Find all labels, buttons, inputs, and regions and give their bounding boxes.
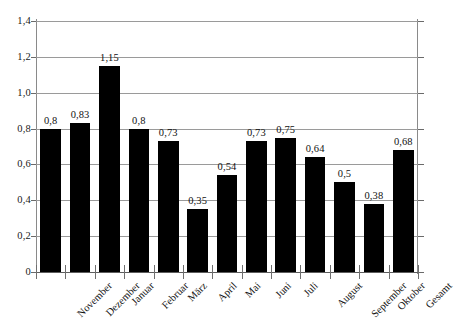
x-axis-category-label: Gesamt xyxy=(424,280,454,310)
x-axis-category-label: August xyxy=(335,280,364,309)
bar xyxy=(246,141,267,272)
y-axis-tick-labels: 00,20,40,60,81,01,21,4 xyxy=(0,21,31,272)
bar-value-label: 0,35 xyxy=(178,195,218,206)
y-axis-tick-label: 1,4 xyxy=(17,16,31,27)
y-axis-tick-label: 0,8 xyxy=(17,124,31,135)
bar xyxy=(99,66,120,272)
bar xyxy=(275,138,296,272)
bar xyxy=(217,175,238,272)
y-axis-tick-right xyxy=(418,57,424,58)
x-axis-category-label: April xyxy=(215,280,238,303)
y-axis-tick-right xyxy=(418,236,424,237)
bar xyxy=(70,123,91,272)
bar xyxy=(334,182,355,272)
bar-value-label: 1,15 xyxy=(89,52,129,63)
y-axis-tick-right xyxy=(418,200,424,201)
bar xyxy=(393,150,414,272)
x-axis-category-labels: NovemberDezemberJanuarFebruarMärzAprilMa… xyxy=(0,272,435,334)
bar xyxy=(158,141,179,272)
x-axis-category-label: März xyxy=(186,280,209,303)
y-axis-tick-label: 0,6 xyxy=(17,159,31,170)
y-axis-tick-label: 0,2 xyxy=(17,231,31,242)
bar-value-label: 0,73 xyxy=(148,127,188,138)
y-axis-tick-right xyxy=(418,21,424,22)
x-axis-category-label: Juli xyxy=(301,280,320,299)
bar-value-label: 0,54 xyxy=(207,161,247,172)
bars-layer: 0,80,831,150,80,730,350,540,730,750,640,… xyxy=(36,21,418,272)
bar-value-label: 0,8 xyxy=(119,115,159,126)
y-axis-tick-label: 0,4 xyxy=(17,195,31,206)
bar-value-label: 0,64 xyxy=(295,143,335,154)
x-axis-category-label: Juni xyxy=(273,280,293,300)
bar-value-label: 0,38 xyxy=(354,190,394,201)
y-axis-tick-label: 1,0 xyxy=(17,88,31,99)
bar xyxy=(364,204,385,272)
bar-value-label: 0,75 xyxy=(266,124,306,135)
y-axis-tick-label: 1,2 xyxy=(17,52,31,63)
y-axis-tick-right xyxy=(418,93,424,94)
x-axis-category-label: Mai xyxy=(243,280,263,300)
y-axis-tick-right xyxy=(418,129,424,130)
bar xyxy=(40,129,61,272)
bar xyxy=(129,129,150,272)
bar-value-label: 0,68 xyxy=(383,136,423,147)
bar xyxy=(187,209,208,272)
bar-value-label: 0,83 xyxy=(60,109,100,120)
plot-area: 0,80,831,150,80,730,350,540,730,750,640,… xyxy=(36,21,418,272)
y-axis-tick-right xyxy=(418,164,424,165)
bar xyxy=(305,157,326,272)
bar-value-label: 0,5 xyxy=(325,168,365,179)
